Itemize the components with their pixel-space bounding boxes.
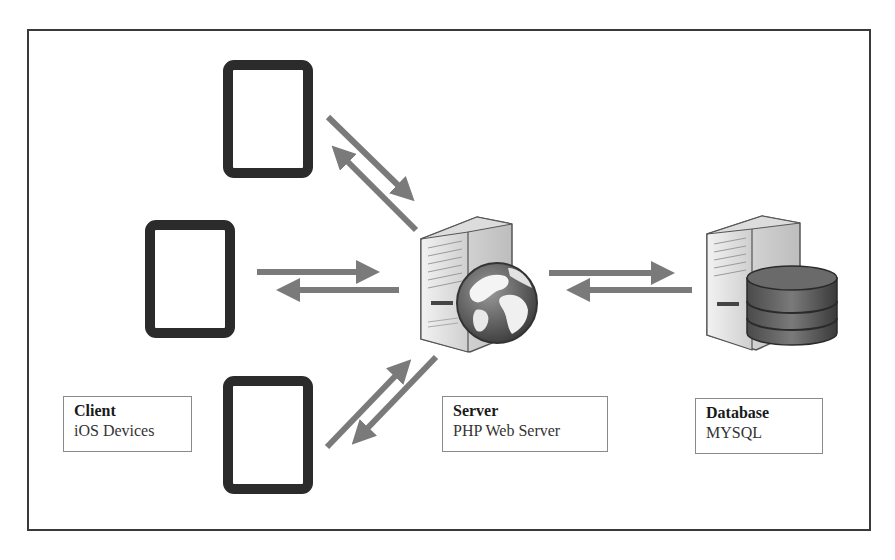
globe-icon — [457, 263, 537, 343]
arrow-server-to-client-bottom — [360, 357, 436, 436]
database-cylinder-icon — [747, 266, 837, 345]
client-subtitle: iOS Devices — [74, 421, 181, 441]
client-title: Client — [74, 401, 181, 421]
server-title: Server — [453, 401, 597, 421]
database-subtitle: MYSQL — [706, 423, 812, 443]
server-label-box: Server PHP Web Server — [442, 396, 608, 452]
database-title: Database — [706, 403, 812, 423]
database-label-box: Database MYSQL — [695, 398, 823, 454]
client-label-box: Client iOS Devices — [63, 396, 192, 452]
arrow-client-bottom-to-server — [327, 368, 403, 447]
server-subtitle: PHP Web Server — [453, 421, 597, 441]
diagram-graphics — [0, 0, 895, 560]
